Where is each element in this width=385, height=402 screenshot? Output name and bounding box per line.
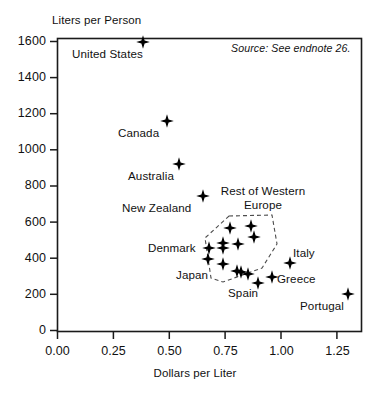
scatter-chart: Liters per Person 1600 1400 1200 1000 80… xyxy=(0,0,385,402)
y-tick-label-0: 0 xyxy=(0,323,46,337)
y-tick-label-1400: 1400 xyxy=(0,70,46,84)
y-tick-label-200: 200 xyxy=(0,287,46,301)
label-italy: Italy xyxy=(293,246,315,259)
y-axis-title: Liters per Person xyxy=(52,14,141,27)
x-tick-label-100: 1.00 xyxy=(255,344,308,358)
label-australia: Australia xyxy=(128,169,174,182)
label-united-states: United States xyxy=(72,47,143,60)
label-greece: Greece xyxy=(277,272,316,285)
label-new-zealand: New Zealand xyxy=(122,201,191,214)
x-axis-title: Dollars per Liter xyxy=(140,367,250,380)
cluster-label-line2: Europe xyxy=(209,198,317,211)
y-tick-label-1200: 1200 xyxy=(0,106,46,120)
chart-canvas xyxy=(0,0,385,402)
y-tick-label-800: 800 xyxy=(0,178,46,192)
x-tick-label-000: 0.00 xyxy=(31,344,84,358)
label-portugal: Portugal xyxy=(300,299,344,312)
x-tick-label-050: 0.50 xyxy=(143,344,196,358)
y-tick-label-600: 600 xyxy=(0,215,46,229)
source-annotation: Source: See endnote 26. xyxy=(231,43,351,55)
y-tick-label-1000: 1000 xyxy=(0,142,46,156)
y-tick-label-1600: 1600 xyxy=(0,34,46,48)
y-axis-ticks xyxy=(50,42,58,331)
y-tick-label-400: 400 xyxy=(0,251,46,265)
label-japan: Japan xyxy=(176,268,208,281)
label-spain: Spain xyxy=(228,286,258,299)
x-tick-label-075: 0.75 xyxy=(199,344,252,358)
label-canada: Canada xyxy=(118,126,159,139)
cluster-label-line1: Rest of Western xyxy=(209,184,317,197)
label-denmark: Denmark xyxy=(148,241,196,254)
x-tick-label-025: 0.25 xyxy=(87,344,140,358)
x-tick-label-125: 1.25 xyxy=(311,344,364,358)
